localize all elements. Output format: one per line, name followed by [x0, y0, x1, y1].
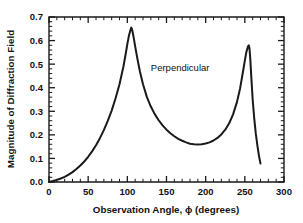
x-tick-label: 150 [159, 186, 175, 197]
x-tick-label: 250 [237, 186, 253, 197]
diffraction-field-plot: 050100150200250300 0.00.10.20.30.40.50.6… [0, 0, 303, 223]
y-tick-label: 0.3 [30, 106, 43, 117]
x-axis-title: Observation Angle, ϕ (degrees) [93, 204, 239, 215]
plot-annotations: Perpendicular [151, 62, 210, 73]
y-tick-label: 0.6 [30, 35, 43, 46]
x-tick-label: 0 [46, 186, 51, 197]
y-tick-label: 0.2 [30, 129, 43, 140]
chart-figure: 050100150200250300 0.00.10.20.30.40.50.6… [0, 0, 303, 223]
x-tick-label: 200 [198, 186, 214, 197]
x-tick-label: 300 [276, 186, 292, 197]
y-tick-label: 0.7 [30, 11, 43, 22]
y-axis-title: Magnitude of Diffraction Field [5, 30, 16, 168]
y-tick-label: 0.1 [30, 153, 44, 164]
x-tick-label: 100 [119, 186, 135, 197]
y-tick-label: 0.4 [30, 82, 44, 93]
x-tick-label: 50 [83, 186, 94, 197]
y-tick-label: 0.0 [30, 176, 43, 187]
curve-annotation-label: Perpendicular [151, 62, 210, 73]
y-tick-label: 0.5 [30, 59, 44, 70]
